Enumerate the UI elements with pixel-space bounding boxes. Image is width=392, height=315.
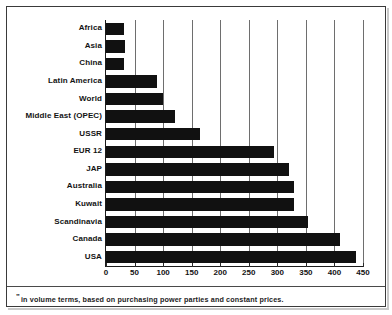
footnote-mark: ": [16, 292, 20, 301]
footnote-divider: [7, 286, 385, 287]
x-tick-mark: [249, 263, 250, 267]
x-tick-label: 200: [214, 268, 227, 277]
bar-row: [106, 108, 363, 126]
bar-middle-east-opec: [106, 110, 175, 122]
x-tick-mark: [106, 263, 107, 267]
category-label-asia: Asia: [85, 41, 102, 50]
x-tick-mark: [135, 263, 136, 267]
category-label-canada: Canada: [73, 234, 103, 243]
x-tick-label: 50: [130, 268, 139, 277]
bar-row: [106, 143, 363, 161]
bar-row: [106, 231, 363, 249]
bar-row: [106, 90, 363, 108]
bar-scandinavia: [106, 216, 308, 228]
bar-kuwait: [106, 198, 294, 210]
x-tick-label: 250: [242, 268, 255, 277]
category-axis-labels: AfricaAsiaChinaLatin AmericaWorldMiddle …: [8, 20, 102, 266]
footnote-text: in volume terms, based on purchasing pow…: [21, 295, 284, 304]
bar-jap: [106, 163, 289, 175]
bar-row: [106, 20, 363, 38]
bar-row: [106, 55, 363, 73]
bar-latin-america: [106, 75, 157, 87]
bar-australia: [106, 181, 294, 193]
bar-china: [106, 58, 124, 70]
x-tick-label: 400: [328, 268, 341, 277]
gridline: [363, 20, 364, 266]
bar-asia: [106, 40, 125, 52]
bar-row: [106, 178, 363, 196]
category-label-scandinavia: Scandinavia: [54, 217, 102, 226]
category-label-world: World: [79, 94, 102, 103]
category-label-kuwait: Kuwait: [75, 199, 102, 208]
x-tick-mark: [277, 263, 278, 267]
bar-row: [106, 213, 363, 231]
bar-africa: [106, 23, 124, 35]
x-tick-label: 100: [156, 268, 169, 277]
bar-row: [106, 125, 363, 143]
x-tick-mark: [306, 263, 307, 267]
category-label-ussr: USSR: [79, 129, 102, 138]
plot-area: [106, 20, 363, 266]
bar-row: [106, 196, 363, 214]
category-label-eur-12: EUR 12: [73, 146, 102, 155]
category-label-australia: Australia: [67, 181, 102, 190]
x-tick-label: 300: [271, 268, 284, 277]
x-tick-label: 450: [356, 268, 369, 277]
x-tick-mark: [363, 263, 364, 267]
x-tick-mark: [220, 263, 221, 267]
x-tick-label: 150: [185, 268, 198, 277]
category-label-china: China: [79, 58, 102, 67]
bar-row: [106, 248, 363, 266]
category-label-middle-east-opec: Middle East (OPEC): [26, 111, 102, 120]
chart-figure: AfricaAsiaChinaLatin AmericaWorldMiddle …: [0, 0, 392, 315]
category-label-jap: JAP: [86, 164, 102, 173]
value-axis-ticks: 050100150200250300350400450: [106, 268, 363, 280]
bar-eur-12: [106, 146, 274, 158]
category-label-usa: USA: [85, 252, 102, 261]
x-tick-mark: [334, 263, 335, 267]
category-label-latin-america: Latin America: [48, 76, 102, 85]
bar-usa: [106, 251, 356, 263]
bar-canada: [106, 233, 340, 245]
x-tick-mark: [192, 263, 193, 267]
bar-row: [106, 73, 363, 91]
chart-footnote: "in volume terms, based on purchasing po…: [16, 292, 378, 304]
category-label-africa: Africa: [79, 23, 102, 32]
bar-row: [106, 38, 363, 56]
x-tick-label: 0: [104, 268, 108, 277]
x-tick-label: 350: [299, 268, 312, 277]
x-tick-mark: [163, 263, 164, 267]
bar-world: [106, 93, 163, 105]
bar-ussr: [106, 128, 200, 140]
bar-row: [106, 161, 363, 179]
